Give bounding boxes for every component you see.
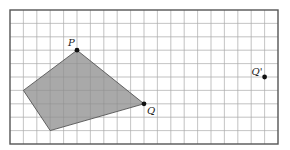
point-label: Q' [252, 66, 263, 77]
point-q [142, 101, 147, 106]
point-label: P [67, 37, 75, 48]
point-label: Q [147, 105, 155, 116]
point-q-prime [262, 75, 267, 80]
point-p [75, 48, 80, 53]
grid-diagram: PQQ' [0, 0, 290, 150]
